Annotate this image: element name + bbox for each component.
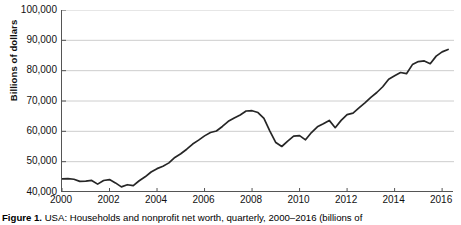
figure-caption-text: USA: Households and nonprofit net worth,…	[45, 212, 363, 223]
chart-svg	[62, 10, 454, 192]
gridlines	[62, 10, 454, 162]
x-axis-tick-labels: 200020022004200620082010201220142016	[61, 194, 461, 210]
x-tick-label: 2002	[86, 194, 132, 205]
y-tick-label: 80,000	[1, 64, 57, 75]
x-tick-label: 2012	[323, 194, 369, 205]
y-axis-tick-marks	[62, 10, 66, 192]
x-tick-label: 2010	[276, 194, 322, 205]
y-axis-tick-labels: 40,00050,00060,00070,00080,00090,000100,…	[0, 0, 57, 225]
plot-area	[61, 10, 453, 192]
x-axis-tick-marks	[62, 188, 442, 192]
x-tick-label: 2000	[38, 194, 84, 205]
net-worth-line-series	[62, 49, 448, 186]
x-tick-label: 2014	[371, 194, 417, 205]
y-tick-label: 70,000	[1, 95, 57, 106]
x-tick-label: 2016	[418, 194, 461, 205]
y-tick-label: 100,000	[1, 4, 57, 15]
figure-container: Billions of dollars 40,00050,00060,00070…	[0, 0, 461, 225]
y-tick-label: 60,000	[1, 125, 57, 136]
x-tick-label: 2008	[228, 194, 274, 205]
x-tick-label: 2006	[181, 194, 227, 205]
figure-caption-label: Figure 1.	[2, 212, 42, 223]
y-tick-label: 90,000	[1, 34, 57, 45]
figure-caption: Figure 1. USA: Households and nonprofit …	[2, 212, 461, 224]
y-tick-label: 50,000	[1, 155, 57, 166]
x-tick-label: 2004	[133, 194, 179, 205]
